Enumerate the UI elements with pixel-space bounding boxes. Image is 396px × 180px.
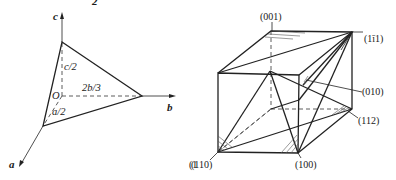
plane-label-1-11: (1ī1) (364, 33, 383, 45)
cube-diagram: (001) (1ī1) (010) (112) (110) (100) (191, 11, 384, 171)
plane-line-hidden (218, 109, 271, 152)
a-axis (21, 126, 43, 164)
axis-label-c: c (53, 10, 58, 22)
leader-100 (298, 153, 301, 158)
leader-112 (348, 111, 358, 118)
plane-line (298, 32, 352, 153)
axis-label-a: a (9, 158, 15, 170)
a-axis-arrowhead-icon (19, 160, 24, 167)
plane-line (270, 71, 298, 153)
plane-line (218, 71, 270, 152)
hatch-001 (268, 34, 300, 36)
intercept-c-label: c/2 (64, 61, 78, 72)
intercept-a-label: a/2 (52, 106, 66, 117)
c-axis-arrowhead-icon (60, 12, 64, 19)
plane-label-010: (010) (362, 86, 384, 98)
intercept-diagram: 2 c b a O c/2 2b/3 a/2 (1 (9, 0, 197, 171)
plane-label-100: (100) (295, 159, 317, 171)
plane-label-110: (110) (191, 159, 212, 171)
origin-label: O (52, 90, 60, 101)
intercept-b-label: 2b/3 (82, 82, 101, 93)
plane-label-112: (112) (358, 115, 379, 127)
plane-line (271, 100, 299, 109)
hatch-001 (265, 37, 293, 39)
leader-010 (306, 80, 362, 92)
cube-front-face (218, 73, 299, 153)
b-axis-arrowhead-icon (169, 94, 176, 98)
crystal-planes-figure: 2 c b a O c/2 2b/3 a/2 (1 (0, 0, 396, 180)
plane-label-001: (001) (260, 11, 282, 23)
axis-label-b: b (167, 101, 173, 113)
title-fragment: 2 (91, 0, 98, 7)
